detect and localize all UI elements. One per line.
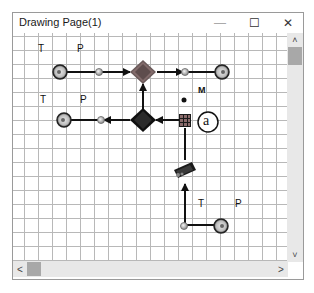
label-top-p: P (77, 43, 84, 54)
pump[interactable] (174, 162, 196, 178)
label-mid-t: T (40, 94, 46, 105)
junction-top-right[interactable] (182, 69, 189, 76)
gauge-top-right[interactable] (215, 65, 229, 79)
label-m: M (198, 85, 206, 95)
valve-block[interactable] (179, 114, 191, 127)
label-bottom-t: T (198, 198, 204, 209)
mixer-mid[interactable] (130, 108, 156, 132)
junction-mid-left[interactable] (98, 117, 105, 124)
label-a: a (203, 113, 209, 129)
m-point[interactable] (182, 98, 187, 103)
junction-bottom[interactable] (181, 223, 188, 230)
label-top-t: T (38, 43, 44, 54)
mixer-top[interactable] (130, 60, 156, 84)
label-bottom-p: P (235, 198, 242, 209)
gauge-top-left[interactable] (53, 65, 67, 79)
process-diagram (0, 0, 314, 293)
junction-top-left[interactable] (96, 69, 103, 76)
label-mid-p: P (80, 94, 87, 105)
gauge-mid-left[interactable] (57, 113, 71, 127)
gauge-bottom-right[interactable] (214, 219, 228, 233)
